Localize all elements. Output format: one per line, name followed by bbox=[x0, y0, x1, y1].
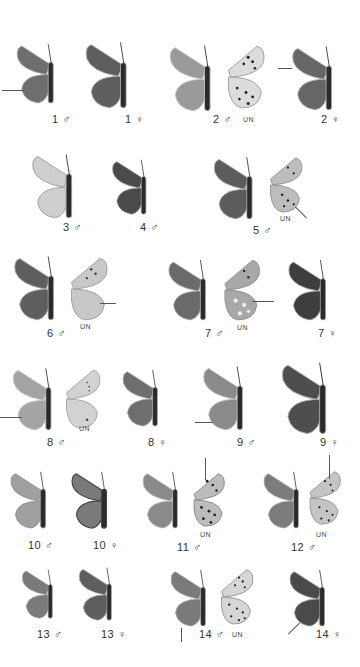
underside-marker: UN bbox=[243, 116, 254, 123]
underside-marker: UN bbox=[232, 631, 243, 638]
label-4-male: 4 ♂ bbox=[140, 221, 159, 233]
label-9-female: 9 ♀ bbox=[320, 436, 339, 448]
specimen-8-male-underside bbox=[62, 366, 104, 430]
label-2-male: 2 ♂ bbox=[213, 113, 232, 125]
label-9-male: 9 ♂ bbox=[237, 436, 256, 448]
specimen-6-male-underside bbox=[66, 254, 112, 322]
label-8-female: 8 ♀ bbox=[148, 436, 167, 448]
specimen-5-male-upperside bbox=[208, 153, 260, 221]
pointer-arrow bbox=[329, 455, 330, 479]
label-13-female: 13 ♀ bbox=[101, 628, 127, 640]
specimen-10-male-upperside bbox=[6, 468, 52, 530]
label-8-male: 8 ♂ bbox=[47, 436, 66, 448]
label-11-male: 11 ♂ bbox=[177, 541, 202, 553]
label-12-male: 12 ♂ bbox=[291, 541, 317, 553]
label-1-female: 1 ♀ bbox=[125, 113, 144, 125]
specimen-1-female-upperside bbox=[82, 38, 132, 110]
pointer-arrow bbox=[252, 301, 274, 302]
label-13-male: 13 ♂ bbox=[37, 628, 63, 640]
pointer-arrow bbox=[181, 628, 182, 642]
specimen-2-male-underside bbox=[224, 40, 268, 112]
label-14-female: 14 ♀ bbox=[316, 628, 342, 640]
pointer-arrow bbox=[195, 422, 213, 423]
pointer-arrow bbox=[100, 303, 116, 304]
pointer-arrow bbox=[205, 458, 206, 480]
label-5-male: 5 ♂ bbox=[253, 224, 272, 236]
underside-marker: UN bbox=[80, 323, 91, 330]
specimen-4-male-upperside bbox=[108, 156, 152, 216]
specimen-12-male-underside bbox=[304, 468, 346, 526]
specimen-7-male-upperside bbox=[164, 256, 212, 322]
specimen-8-female-upperside bbox=[118, 366, 164, 428]
specimen-14-male-upperside bbox=[166, 566, 212, 628]
specimen-12-male-upperside bbox=[256, 468, 308, 530]
label-7-male: 7 ♂ bbox=[205, 327, 224, 339]
label-14-male: 14 ♂ bbox=[199, 628, 225, 640]
pointer-arrow bbox=[2, 90, 24, 91]
specimen-11-male-upperside bbox=[136, 468, 186, 530]
label-3-male: 3 ♂ bbox=[63, 221, 82, 233]
label-10-male: 10 ♂ bbox=[28, 539, 54, 551]
specimen-14-male-underside bbox=[216, 566, 258, 626]
specimen-3-male-upperside bbox=[27, 150, 79, 220]
pointer-arrow bbox=[0, 417, 22, 418]
specimen-13-female-upperside bbox=[74, 564, 118, 622]
specimen-10-female-upperside bbox=[66, 468, 114, 530]
specimen-8-male-upperside bbox=[8, 364, 58, 432]
underside-marker: UN bbox=[280, 215, 291, 222]
specimen-14-female-upperside bbox=[284, 566, 332, 628]
underside-marker: UN bbox=[237, 324, 248, 331]
specimen-7-female-upperside bbox=[284, 256, 332, 322]
specimen-9-female-upperside bbox=[275, 358, 335, 436]
specimen-5-male-underside bbox=[265, 154, 307, 214]
label-6-male: 6 ♂ bbox=[47, 327, 66, 339]
label-10-female: 10 ♀ bbox=[93, 539, 119, 551]
underside-marker: UN bbox=[200, 531, 211, 538]
specimen-7-male-underside bbox=[220, 256, 264, 322]
specimen-11-male-underside bbox=[188, 470, 230, 528]
label-2-female: 2 ♀ bbox=[321, 113, 340, 125]
specimen-13-male-upperside bbox=[18, 566, 58, 620]
label-1-male: 1 ♂ bbox=[52, 113, 71, 125]
underside-marker: UN bbox=[79, 425, 90, 432]
butterfly-plate: 1 ♂ 1 ♀ 2 ♂ UN 2 ♀ 3 ♂ 4 ♂ UN 5 ♂ UN 6 ♂… bbox=[0, 0, 360, 667]
specimen-2-male-upperside bbox=[164, 41, 218, 113]
specimen-1-male-upperside bbox=[14, 40, 58, 105]
label-7-female: 7 ♀ bbox=[318, 327, 337, 339]
pointer-arrow bbox=[278, 68, 292, 69]
underside-marker: UN bbox=[316, 531, 327, 538]
specimen-6-male-upperside bbox=[10, 252, 60, 322]
specimen-2-female-upperside bbox=[288, 42, 338, 112]
